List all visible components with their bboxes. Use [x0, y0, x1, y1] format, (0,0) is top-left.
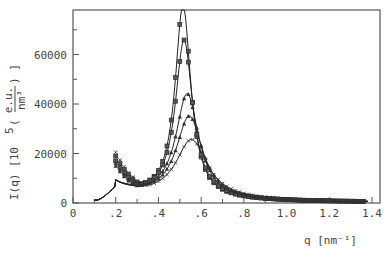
data-markers — [114, 22, 366, 203]
square-marker — [186, 49, 190, 53]
triangle-marker — [190, 105, 194, 109]
square-marker — [169, 118, 173, 122]
square-marker — [161, 163, 165, 167]
y-tick-label: 20000 — [34, 148, 67, 161]
y-axis-label: I(q) [105 (e.u.nm³) ] — [2, 64, 28, 200]
triangle-marker — [118, 169, 122, 173]
square-marker — [208, 174, 212, 178]
cross-marker — [178, 153, 182, 157]
triangle-marker — [178, 114, 182, 118]
square-marker — [216, 184, 220, 188]
square-marker — [203, 166, 207, 170]
square-marker — [174, 99, 178, 103]
y-label-exponent: 5 — [3, 127, 16, 134]
y-label-main: I(q) [10 — [8, 147, 21, 200]
cross-marker — [182, 145, 186, 149]
triangle-marker — [169, 159, 173, 163]
triangle-marker — [173, 148, 177, 152]
square-marker — [165, 144, 169, 148]
x-tick-label: .2 — [109, 207, 122, 220]
cross-marker — [174, 161, 178, 165]
fit-curve-series-2 — [94, 40, 367, 201]
y-label-numerator: e.u. — [2, 87, 15, 114]
square-marker — [156, 171, 160, 175]
triangle-marker — [165, 161, 169, 165]
triangle-marker — [182, 122, 186, 126]
y-label-denominator: nm³ — [15, 90, 28, 110]
square-marker — [174, 76, 178, 80]
cross-marker — [161, 177, 165, 181]
x-axis-label: q [nm⁻¹] — [304, 234, 357, 247]
cross-marker — [114, 150, 118, 154]
triangle-marker — [178, 135, 182, 139]
x-tick-label: .8 — [237, 207, 250, 220]
x-tick-label: 0 — [70, 207, 77, 220]
fit-curve-series-1 — [94, 10, 367, 201]
plot-border — [73, 10, 380, 203]
square-marker — [178, 22, 182, 26]
y-label-paren-close: ) ] — [8, 64, 21, 84]
x-tick-label: 1.2 — [319, 207, 339, 220]
square-marker — [169, 131, 173, 135]
square-marker — [165, 151, 169, 155]
x-tick-label: 1.0 — [277, 207, 297, 220]
square-marker — [212, 180, 216, 184]
x-tick-label: .6 — [195, 207, 208, 220]
square-marker — [178, 60, 182, 64]
y-tick-label: 60000 — [34, 49, 67, 62]
triangle-marker — [199, 143, 203, 147]
x-tick-label: 1.4 — [362, 207, 382, 220]
triangle-marker — [173, 134, 177, 138]
scattering-intensity-chart: 0.2.4.6.81.01.21.4 0200004000060000 q [n… — [0, 0, 388, 258]
cross-marker — [187, 139, 191, 143]
triangle-marker — [182, 96, 186, 100]
y-axis-ticks: 0200004000060000 — [34, 30, 79, 210]
y-tick-label: 40000 — [34, 98, 67, 111]
cross-marker — [169, 168, 173, 172]
y-tick-label: 0 — [60, 197, 67, 210]
square-marker — [114, 154, 118, 158]
square-marker — [191, 100, 195, 104]
square-marker — [186, 60, 190, 64]
y-label-paren-open: ( — [8, 119, 21, 126]
x-tick-label: .4 — [152, 207, 166, 220]
square-marker — [182, 38, 186, 42]
triangle-marker — [169, 150, 173, 154]
plot-frame — [73, 10, 380, 203]
cross-marker — [165, 173, 169, 177]
fit-curves — [94, 10, 367, 201]
